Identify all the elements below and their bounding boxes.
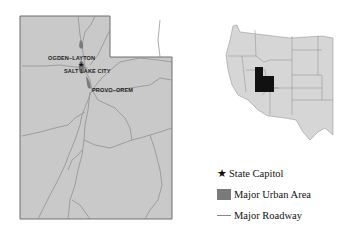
legend-label: Major Urban Area (234, 189, 311, 200)
state-capitol-star-icon: ★ (78, 61, 84, 68)
city-label-ogden-layton: OGDEN–LAYTON (48, 55, 95, 61)
western-us-inset-map (226, 25, 333, 140)
star-icon: ★ (217, 168, 229, 179)
utah-state-outline (20, 16, 172, 219)
legend-label: State Capitol (229, 168, 284, 179)
legend-item-state-capitol: ★ State Capitol (217, 168, 284, 179)
city-label-provo-orem: PROVO–OREM (92, 87, 133, 93)
city-label-salt-lake-city: SALT LAKE CITY (64, 68, 111, 74)
legend-item-major-roadway: Major Roadway (217, 210, 302, 221)
urban-area-swatch (217, 189, 231, 200)
western-us-outline (226, 25, 333, 140)
roadway-line-icon (217, 215, 231, 216)
utah-map: ★ OGDEN–LAYTON SALT LAKE CITY PROVO–OREM (0, 0, 349, 242)
legend-item-major-urban-area: Major Urban Area (217, 189, 311, 200)
legend-label: Major Roadway (234, 210, 302, 221)
